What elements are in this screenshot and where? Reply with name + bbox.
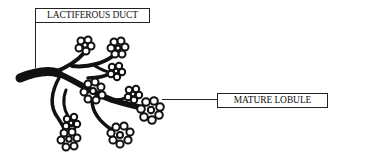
lobule-icon <box>125 86 142 103</box>
mammary-duct-diagram <box>0 0 370 160</box>
mature-lobule-label: MATURE LOBULE <box>217 93 328 108</box>
lobule-icon <box>81 79 106 104</box>
lactiferous-duct-label: LACTIFEROUS DUCT <box>35 8 150 23</box>
lobule-icon <box>107 122 133 147</box>
lobule-icon <box>108 63 125 80</box>
lobule-icon <box>76 37 95 55</box>
lobule-clusters <box>58 37 164 151</box>
lobule-icon <box>58 129 81 151</box>
mature-lobule-icon <box>137 97 164 124</box>
lobule-icon <box>108 38 129 58</box>
